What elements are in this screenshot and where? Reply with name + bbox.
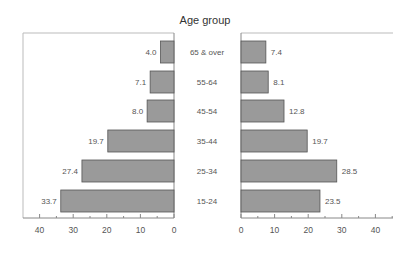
- right-bar: [241, 130, 307, 152]
- right-bar: [241, 100, 284, 122]
- left-tick-label: 10: [136, 225, 146, 235]
- left-value-label: 7.1: [135, 78, 147, 87]
- left-value-label: 4.0: [145, 48, 157, 57]
- left-bars: 4.07.18.019.727.433.7: [41, 41, 174, 212]
- right-value-label: 12.8: [289, 107, 305, 116]
- left-bar: [82, 160, 174, 182]
- right-x-axis-ticks: 010203040: [239, 214, 393, 235]
- right-bar: [241, 190, 320, 212]
- right-bar: [241, 160, 337, 182]
- right-tick-label: 30: [337, 225, 347, 235]
- left-tick-label: 40: [35, 225, 45, 235]
- left-tick-label: 30: [68, 225, 78, 235]
- right-value-label: 23.5: [325, 197, 341, 206]
- right-tick-label: 0: [239, 225, 244, 235]
- category-label: 45-54: [197, 107, 218, 116]
- right-bars: 7.48.112.819.728.523.5: [241, 41, 358, 212]
- category-label: 25-34: [197, 167, 218, 176]
- category-label: 35-44: [197, 137, 218, 146]
- left-panel: 4.07.18.019.727.433.7 403020100: [23, 33, 177, 235]
- left-bar: [150, 71, 174, 93]
- right-bar: [241, 41, 266, 63]
- right-tick-label: 20: [303, 225, 313, 235]
- right-tick-label: 40: [371, 225, 381, 235]
- right-value-label: 8.1: [273, 78, 285, 87]
- category-label: 65 & over: [190, 48, 225, 57]
- chart-title: Age group: [180, 14, 231, 26]
- left-value-label: 8.0: [132, 107, 144, 116]
- butterfly-bar-chart: Age group 4.07.18.019.727.433.7 40302010…: [0, 0, 393, 254]
- category-labels: 65 & over55-6445-5435-4425-3415-24: [190, 48, 225, 206]
- left-bar: [147, 100, 174, 122]
- left-value-label: 33.7: [41, 197, 57, 206]
- right-tick-label: 10: [270, 225, 280, 235]
- right-value-label: 19.7: [312, 137, 328, 146]
- left-value-label: 19.7: [88, 137, 104, 146]
- left-bar: [161, 41, 174, 63]
- right-bar: [241, 71, 268, 93]
- left-x-axis-ticks: 403020100: [35, 214, 177, 235]
- left-bar: [61, 190, 174, 212]
- right-value-label: 7.4: [271, 48, 283, 57]
- category-label: 55-64: [197, 78, 218, 87]
- left-tick-label: 20: [102, 225, 112, 235]
- left-bar: [108, 130, 174, 152]
- left-tick-label: 0: [172, 225, 177, 235]
- right-panel: 7.48.112.819.728.523.5 010203040: [239, 33, 393, 235]
- right-value-label: 28.5: [342, 167, 358, 176]
- left-value-label: 27.4: [62, 167, 78, 176]
- category-label: 15-24: [197, 197, 218, 206]
